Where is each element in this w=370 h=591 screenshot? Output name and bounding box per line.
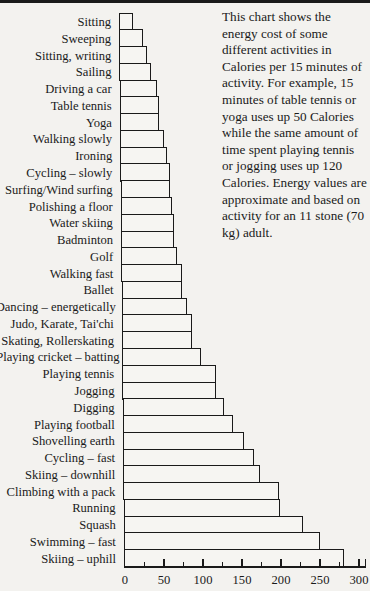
major-tick [163,559,165,566]
bar [120,130,164,148]
bar [120,113,159,131]
x-tick-label: 50 [158,573,171,588]
bar [122,365,216,383]
major-tick [280,559,282,566]
major-tick [241,559,243,566]
bar-label: Running [0,499,116,517]
bar [119,46,146,64]
bar-label: Driving a car [0,80,112,98]
bar [124,499,280,517]
bar-label: Sweeping [0,30,111,48]
bar [124,549,344,567]
bar-label: Ballet [0,281,114,299]
bar-label: Cycling – slowly [0,164,112,182]
bar [120,163,169,181]
bar-label: Swimming – fast [0,533,116,551]
bar-label: Walking slowly [0,130,112,148]
bar [123,449,254,467]
bar-label: Water skiing [0,214,113,232]
major-tick [358,559,360,566]
bar [123,465,260,483]
bar [122,348,201,366]
minor-tick [222,562,224,567]
major-tick [319,559,321,566]
minor-tick [261,562,263,567]
bar [122,382,216,400]
bar-label: Skating, Rollerskating [0,332,114,350]
bar-label: Playing tennis [0,365,114,383]
bar-label: Digging [0,399,115,417]
bar [123,398,224,416]
minor-tick [339,562,341,567]
bar [122,314,192,332]
bar-label: Golf [0,248,113,266]
bar [123,415,233,433]
bar-label: Sailing [0,63,111,81]
bar [124,532,321,550]
x-tick-label: 150 [233,573,252,588]
bar-label: Dancing – energetically [0,298,114,316]
bar [122,331,192,349]
bar [123,432,244,450]
bar-label: Walking fast [0,265,113,283]
minor-tick [183,562,185,567]
bar [122,298,188,316]
bar-label: Polishing a floor [0,198,113,216]
x-tick-label: 100 [194,573,213,588]
bar-label: Sitting, writing [0,47,111,65]
bar-label: Sitting [0,13,111,31]
bar [121,197,172,215]
bar-label: Surfing/Wind surfing [0,181,113,199]
bar [124,516,303,534]
bar-label: Shovelling earth [0,432,115,450]
bar-label: Cycling – fast [0,449,115,467]
bar [121,231,174,249]
minor-tick [300,562,302,567]
bar [122,281,183,299]
bar [121,264,182,282]
bar [120,147,167,165]
bar-label: Table tennis [0,97,112,115]
major-tick [202,559,204,566]
bar-label: Skiing – downhill [0,466,115,484]
bar-label: Ironing [0,147,112,165]
bar-label: Skiing – uphill [0,550,116,568]
bar [121,180,170,198]
bar [121,214,174,232]
x-tick-label: 250 [311,573,330,588]
x-axis-line [124,566,366,568]
bar [120,96,159,114]
bar-label: Judo, Karate, Tai'chi [0,315,114,333]
bar-label: Yoga [0,114,112,132]
bar [119,13,133,31]
bar-label: Jogging [0,382,114,400]
x-tick-label: 0 [122,573,128,588]
minor-tick [144,562,146,567]
bar [120,80,157,98]
x-tick-label: 300 [350,573,369,588]
bar-label: Badminton [0,231,113,249]
x-tick-label: 200 [272,573,291,588]
bar [121,247,177,265]
axis-end-tick [365,559,367,566]
horizontal-bar-chart: SittingSweepingSitting, writingSailingDr… [0,0,370,591]
bar [123,482,279,500]
bar-label: Squash [0,516,116,534]
bar-label: Climbing with a pack [0,483,115,501]
bar-label: Playing football [0,416,115,434]
bar [119,63,150,81]
bar-label: Playing cricket – batting [0,348,114,366]
bar [119,29,142,47]
